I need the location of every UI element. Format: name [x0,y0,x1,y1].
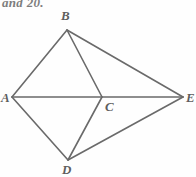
vertex-label-d: D [62,163,71,176]
geometry-diagram [0,0,196,177]
vertex-label-e: E [186,91,195,104]
segment-AD [12,97,68,160]
edge-layer [12,30,183,160]
segment-AB [12,30,67,97]
geometry-figure-screen: and 20. ABCDE [0,0,196,177]
vertex-label-b: B [61,9,70,22]
vertex-label-a: A [1,91,10,104]
vertex-label-c: C [105,100,114,113]
